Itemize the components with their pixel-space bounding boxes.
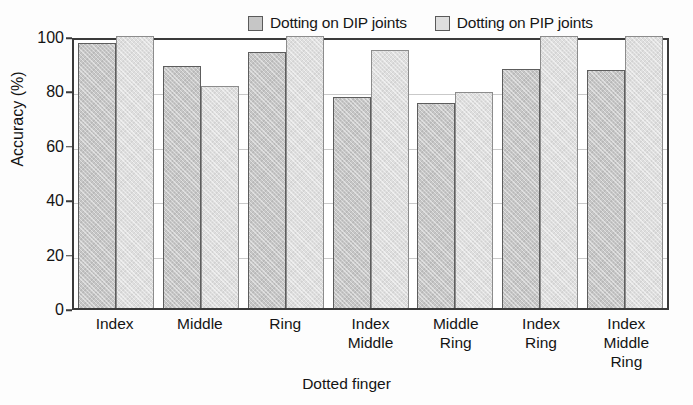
bar-group	[243, 40, 328, 308]
x-axis-tick-label-line: Index	[328, 314, 413, 333]
legend-label-pip: Dotting on PIP joints	[457, 14, 593, 32]
bar-group	[413, 40, 498, 308]
x-axis-tick-label-line: Index	[498, 314, 583, 333]
legend-label-dip: Dotting on DIP joints	[270, 14, 407, 32]
legend-swatch-pip-icon	[435, 16, 450, 31]
bar-pip	[116, 36, 154, 308]
y-axis-tick-label: 60	[46, 138, 64, 156]
bar-dip	[417, 103, 455, 308]
legend-swatch-dip-icon	[248, 16, 263, 31]
bar-pip	[286, 36, 324, 308]
bar-group	[328, 40, 413, 308]
x-axis-tick-label: Middle	[157, 314, 242, 371]
bars-layer	[74, 40, 667, 308]
bar-dip	[248, 52, 286, 308]
y-axis-tick-label: 0	[55, 301, 64, 319]
bar-pip	[371, 50, 409, 308]
bar-pip	[625, 36, 663, 308]
bar-dip	[78, 43, 116, 308]
x-axis: IndexMiddleRingIndexMiddleMiddleRingInde…	[72, 314, 669, 371]
x-axis-tick-label: IndexRing	[498, 314, 583, 371]
bar-pip	[455, 92, 493, 308]
bar-dip	[163, 66, 201, 308]
y-axis-tick-label: 40	[46, 192, 64, 210]
x-axis-tick-label-line: Middle	[584, 333, 669, 352]
bar-pip	[540, 36, 578, 308]
bar-group	[498, 40, 583, 308]
x-axis-tick-label: MiddleRing	[413, 314, 498, 371]
x-axis-tick-label: Ring	[243, 314, 328, 371]
x-axis-title: Dotted finger	[0, 375, 693, 393]
y-axis-tick-label: 100	[37, 29, 64, 47]
bar-dip	[502, 69, 540, 308]
y-axis-tick-label: 80	[46, 83, 64, 101]
bar-dip	[587, 70, 625, 308]
x-axis-tick-label-line: Index	[72, 314, 157, 333]
x-axis-tick-label-line: Middle	[328, 333, 413, 352]
x-axis-tick-label-line: Middle	[413, 314, 498, 333]
x-axis-tick-label-line: Middle	[157, 314, 242, 333]
bar-dip	[333, 97, 371, 308]
y-axis-title: Accuracy (%)	[9, 19, 27, 219]
x-axis-tick-label-line: Ring	[413, 333, 498, 352]
bar-group	[159, 40, 244, 308]
bar-group	[74, 40, 159, 308]
bar-chart-figure: Dotting on DIP joints Dotting on PIP joi…	[0, 0, 693, 405]
plot-area	[72, 38, 669, 310]
x-axis-tick-label: Index	[72, 314, 157, 371]
x-axis-tick-label-line: Index	[584, 314, 669, 333]
x-axis-tick-label-line: Ring	[584, 352, 669, 371]
x-axis-tick-label: IndexMiddleRing	[584, 314, 669, 371]
chart-legend: Dotting on DIP joints Dotting on PIP joi…	[248, 10, 680, 36]
x-axis-tick-label: IndexMiddle	[328, 314, 413, 371]
bar-group	[582, 40, 667, 308]
legend-entry-pip: Dotting on PIP joints	[435, 14, 593, 32]
bar-pip	[201, 86, 239, 308]
legend-entry-dip: Dotting on DIP joints	[248, 14, 407, 32]
x-axis-tick-label-line: Ring	[498, 333, 583, 352]
y-axis-tick-label: 20	[46, 247, 64, 265]
x-axis-tick-label-line: Ring	[243, 314, 328, 333]
